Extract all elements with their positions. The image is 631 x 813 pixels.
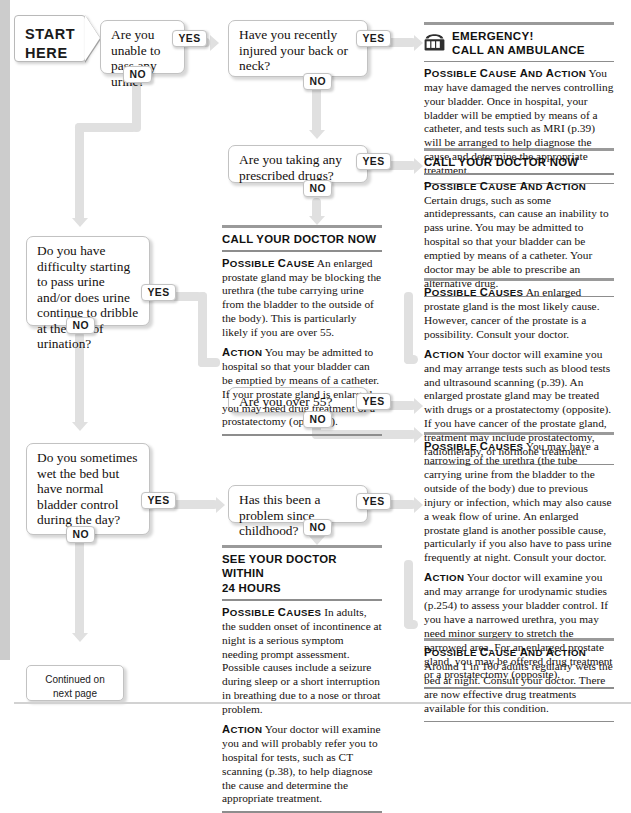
question-box-q7[interactable]: Has this been a problem since childhood? — [228, 485, 368, 523]
emergency-para1-lead: POSSIBLE CAUSE AND ACTION — [424, 68, 586, 79]
connector-q6-no — [75, 540, 84, 638]
tag-q2-no[interactable]: NO — [303, 73, 332, 90]
see-doctor-head-line1: SEE YOUR DOCTOR WITHIN — [222, 553, 337, 580]
tag-q1-no[interactable]: NO — [123, 66, 152, 83]
panel-rule-bottom — [424, 721, 614, 722]
urethra-para1-lead: POSSIBLE CAUSES — [424, 441, 523, 452]
doctor-right-para1-lead: POSSIBLE CAUSE AND ACTION — [424, 181, 586, 192]
tag-q7-yes[interactable]: YES — [356, 493, 391, 510]
tag-q3-no[interactable]: NO — [303, 180, 332, 197]
telephone-icon — [424, 34, 445, 51]
doctor-mid-para1-lead: POSSIBLE CAUSE — [222, 258, 315, 269]
see-doctor-para1-text: In adults, the sudden onset of incontine… — [222, 606, 382, 715]
call-doctor-now-heading: CALL YOUR DOCTOR NOW — [424, 151, 614, 173]
arrow-q1-no — [72, 218, 88, 227]
emergency-heading-text: EMERGENCY! CALL AN AMBULANCE — [452, 29, 585, 57]
question-box-q4[interactable]: Do you have difficulty starting to pass … — [26, 236, 150, 326]
start-here-flag: START HERE — [14, 15, 86, 62]
emergency-head-line1: EMERGENCY! — [452, 29, 534, 42]
panel-bedwetting: POSSIBLE CAUSE AND ACTION Around 1 in 10… — [424, 638, 614, 722]
prostate-para2-lead: ACTION — [424, 349, 464, 360]
arrow-q5-yes — [414, 398, 423, 414]
arrow-q7-no — [309, 536, 325, 545]
connector-spine-elbow-a — [404, 355, 418, 364]
question-text-q3: Are you taking any prescribed drugs? — [239, 152, 342, 183]
see-doctor-para2-text: Your doctor will examine you and will pr… — [222, 723, 381, 804]
continued-line2: next page — [31, 687, 119, 701]
see-doctor-para2-lead: ACTION — [222, 724, 262, 735]
tag-q5-no[interactable]: NO — [303, 411, 332, 428]
arrow-q6-yes — [216, 497, 225, 513]
panel-rule-bottom — [222, 434, 382, 435]
see-doctor-para1-lead: POSSIBLE CAUSES — [222, 607, 321, 618]
panel-call-doctor-now-right: CALL YOUR DOCTOR NOW POSSIBLE CAUSE AND … — [424, 148, 614, 297]
arrow-q1-yes — [210, 35, 219, 51]
tag-q3-yes[interactable]: YES — [356, 153, 391, 170]
question-box-q2[interactable]: Have you recently injured your back or n… — [228, 20, 368, 77]
connector-q1-no-b — [75, 123, 84, 223]
urethra-para1-text: You may have a narrowing of the urethra … — [424, 440, 611, 563]
arrow-q4-no — [72, 422, 88, 431]
emergency-heading: EMERGENCY! CALL AN AMBULANCE — [424, 25, 614, 60]
tag-q1-yes[interactable]: YES — [172, 30, 207, 47]
question-text-q4: Do you have difficulty starting to pass … — [37, 243, 138, 351]
see-doctor-head-line2: 24 HOURS — [222, 582, 281, 594]
continued-line1: Continued on — [31, 673, 119, 687]
tag-q4-no[interactable]: NO — [66, 317, 95, 334]
doctor-mid-para2-text: You may be admitted to hospital so that … — [222, 346, 379, 427]
bedwetting-para1-text: Around 1 in 100 adults regularly wets th… — [424, 660, 613, 714]
bedwetting-para1-lead: POSSIBLE CAUSE AND ACTION — [424, 647, 586, 658]
arrow-q2-yes — [414, 35, 423, 51]
page-bottom-rule — [14, 702, 631, 704]
doctor-mid-para2-lead: ACTION — [222, 347, 262, 358]
tag-q5-yes[interactable]: YES — [356, 393, 391, 410]
arrow-q3-no — [309, 216, 325, 225]
arrow-q3-yes — [414, 158, 423, 174]
tag-q2-yes[interactable]: YES — [356, 30, 391, 47]
question-box-q6[interactable]: Do you sometimes wet the bed but have no… — [26, 443, 150, 535]
connector-spine-elbow-b — [404, 620, 418, 629]
question-text-q2: Have you recently injured your back or n… — [239, 27, 348, 73]
call-doctor-now-middle-heading: CALL YOUR DOCTOR NOW — [222, 228, 382, 250]
arrow-q7-yes — [414, 497, 423, 513]
tag-q7-no[interactable]: NO — [303, 519, 332, 536]
connector-q4-yes-b — [198, 292, 207, 367]
see-doctor-24h-heading: SEE YOUR DOCTOR WITHIN 24 HOURS — [222, 548, 382, 599]
continued-next-page-box[interactable]: Continued on next page — [26, 665, 124, 701]
tag-q6-yes[interactable]: YES — [141, 492, 176, 509]
tag-q4-yes[interactable]: YES — [141, 284, 176, 301]
prostate-para1-lead: POSSIBLE CAUSES — [424, 287, 523, 298]
connector-spine-right-a — [404, 292, 413, 364]
panel-see-doctor-24h: SEE YOUR DOCTOR WITHIN 24 HOURS POSSIBLE… — [222, 545, 382, 813]
connector-spine-right-b — [404, 560, 413, 628]
question-box-q3[interactable]: Are you taking any prescribed drugs? — [228, 145, 368, 183]
arrow-q5-no — [414, 427, 423, 443]
start-label-line2: HERE — [25, 44, 77, 63]
arrow-q2-no — [309, 130, 325, 139]
emergency-head-line2: CALL AN AMBULANCE — [452, 43, 585, 56]
connector-q4-yes-c — [198, 358, 220, 367]
arrow-q6-no — [72, 633, 88, 642]
question-text-q6: Do you sometimes wet the bed but have no… — [37, 450, 137, 527]
connector-q1-no-elbow — [75, 123, 137, 132]
see-doctor-24h-body: POSSIBLE CAUSES In adults, the sudden on… — [222, 601, 382, 811]
bedwetting-body: POSSIBLE CAUSE AND ACTION Around 1 in 10… — [424, 641, 614, 720]
tag-q6-no[interactable]: NO — [66, 526, 95, 543]
doctor-right-para1-text: Certain drugs, such as some antidepressa… — [424, 194, 609, 289]
start-label-line1: START — [25, 25, 77, 44]
urethra-para2-lead: ACTION — [424, 572, 464, 583]
